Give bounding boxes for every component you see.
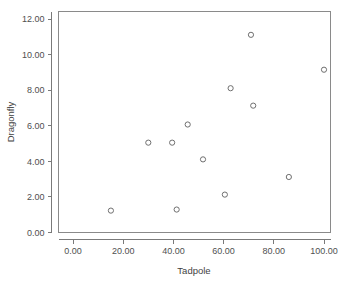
data-point-marker <box>108 208 113 213</box>
x-tick-label: 100.00 <box>310 246 338 256</box>
x-tick-label: 80.00 <box>263 246 286 256</box>
data-point-marker <box>228 86 233 91</box>
plot-border <box>59 12 331 233</box>
scatter-chart: 0.0020.0040.0060.0080.00100.00 0.002.004… <box>0 0 350 284</box>
x-axis-title: Tadpole <box>177 265 210 276</box>
data-point-marker <box>248 32 253 37</box>
data-point-marker <box>222 192 227 197</box>
data-point-marker <box>185 122 190 127</box>
data-point-marker <box>170 140 175 145</box>
y-tick-label: 6.00 <box>27 121 45 131</box>
y-tick-label: 8.00 <box>27 85 45 95</box>
plot-canvas: 0.0020.0040.0060.0080.00100.00 0.002.004… <box>0 0 350 284</box>
x-tick-label: 40.00 <box>162 246 185 256</box>
data-point-marker <box>321 67 326 72</box>
x-tick-label: 20.00 <box>112 246 135 256</box>
y-tick-label: 0.00 <box>27 228 45 238</box>
y-tick-label: 10.00 <box>22 50 45 60</box>
data-point-marker <box>286 174 291 179</box>
data-point-marker <box>200 157 205 162</box>
y-tick-label: 2.00 <box>27 192 45 202</box>
data-point-marker <box>146 140 151 145</box>
y-tick-label: 4.00 <box>27 157 45 167</box>
data-point-marker <box>174 207 179 212</box>
plot-frame <box>59 12 331 233</box>
x-tick-label: 0.00 <box>64 246 82 256</box>
y-axis-title: Dragonfly <box>5 101 16 142</box>
x-axis: 0.0020.0040.0060.0080.00100.00 <box>59 240 338 256</box>
y-axis: 0.002.004.006.008.0010.0012.00 <box>22 12 52 238</box>
data-points <box>108 32 326 213</box>
data-point-marker <box>251 103 256 108</box>
x-tick-label: 60.00 <box>212 246 235 256</box>
y-tick-label: 12.00 <box>22 14 45 24</box>
